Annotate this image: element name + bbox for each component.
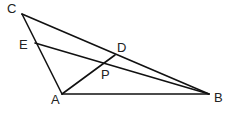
diagram-svg: C E D P A B xyxy=(0,0,233,121)
label-b: B xyxy=(214,90,223,105)
label-d: D xyxy=(117,40,126,55)
label-e: E xyxy=(19,37,28,52)
label-p: P xyxy=(101,67,110,82)
label-c: C xyxy=(7,1,16,16)
label-a: A xyxy=(51,92,60,107)
segment-ca xyxy=(22,14,62,94)
geometry-diagram: C E D P A B xyxy=(0,0,233,121)
segment-cb xyxy=(22,14,209,94)
